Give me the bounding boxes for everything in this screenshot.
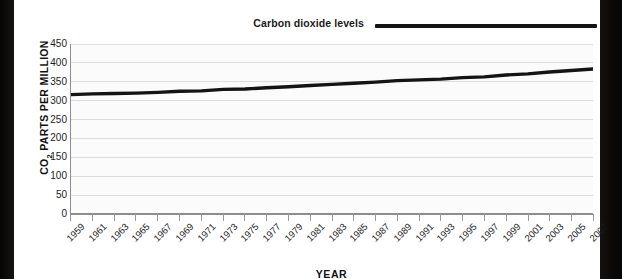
chart-legend: Carbon dioxide levels [14,17,600,35]
y-tick-label: 100 [34,171,67,181]
y-tick-label: 150 [34,152,67,162]
x-tick-label: 1969 [173,221,196,244]
x-tick-label: 1995 [456,221,479,244]
x-tick-label: 1973 [217,221,240,244]
x-tick-label: 1991 [413,221,436,244]
y-tick-label: 200 [34,133,67,143]
x-tick-label: 1975 [238,221,261,244]
x-tick-mark [157,214,158,221]
x-tick-label: 1981 [304,221,327,244]
x-tick-mark [419,214,420,221]
x-tick-mark [70,214,71,221]
x-tick-label: 1993 [435,221,458,244]
y-tick-label: 50 [34,190,67,200]
y-tick-label: 0 [34,209,67,219]
y-tick-label: 450 [34,39,67,49]
x-tick-label: 1983 [326,221,349,244]
x-tick-mark [375,214,376,221]
x-tick-mark [310,214,311,221]
x-axis-tick-labels: 1959196119631965196719691971197319751977… [70,221,593,265]
legend-label: Carbon dioxide levels [253,17,364,29]
x-tick-mark [332,214,333,221]
x-tick-label: 1967 [151,221,174,244]
x-tick-label: 1987 [369,221,392,244]
x-tick-label: 1963 [108,221,131,244]
y-tick-label: 400 [34,58,67,68]
x-tick-label: 1977 [260,221,283,244]
x-tick-mark [288,214,289,221]
x-tick-mark [484,214,485,221]
x-tick-label: 2001 [522,221,545,244]
x-tick-label: 2003 [543,221,566,244]
x-tick-label: 1985 [347,221,370,244]
x-axis-title: YEAR [70,268,593,279]
x-tick-label: 1979 [282,221,305,244]
x-tick-mark [266,214,267,221]
x-tick-label: 1961 [86,221,109,244]
y-tick-label: 350 [34,77,67,87]
x-tick-label: 1971 [195,221,218,244]
x-tick-label: 1997 [478,221,501,244]
x-tick-mark [135,214,136,221]
scan-margin-right [600,0,622,279]
x-tick-label: 1959 [64,221,87,244]
x-tick-mark [571,214,572,221]
x-tick-label: 2005 [565,221,588,244]
x-tick-mark [593,214,594,221]
line-chart: CO2 PARTS PER MILLION 050100150200250300… [14,44,600,229]
scan-margin-left [0,0,14,279]
y-axis-tick-labels: 050100150200250300350400450 [34,44,67,214]
series-carbon-dioxide-levels [71,44,593,214]
x-tick-mark [179,214,180,221]
x-tick-mark [201,214,202,221]
x-tick-label: 1965 [129,221,152,244]
x-tick-mark [462,214,463,221]
x-tick-mark [92,214,93,221]
series-line [71,69,593,95]
x-tick-mark [114,214,115,221]
plot-area [70,44,593,214]
chart-page: Carbon dioxide levels CO2 PARTS PER MILL… [14,0,600,279]
x-tick-label: 1999 [500,221,523,244]
x-tick-mark [223,214,224,221]
legend-line-swatch [375,24,597,28]
x-tick-mark [397,214,398,221]
x-tick-mark [353,214,354,221]
y-tick-label: 250 [34,115,67,125]
x-tick-mark [440,214,441,221]
x-tick-mark [549,214,550,221]
x-tick-mark [528,214,529,221]
x-tick-mark [244,214,245,221]
x-tick-label: 1989 [391,221,414,244]
y-tick-label: 300 [34,96,67,106]
x-tick-mark [506,214,507,221]
